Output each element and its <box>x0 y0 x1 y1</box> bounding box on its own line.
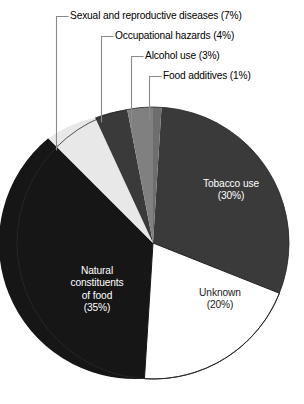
slice-label-unknown-line2: (20%) <box>175 299 265 311</box>
slice-label-natural-line1: Natural <box>49 265 145 277</box>
slice-label-unknown-line1: Unknown <box>175 287 265 299</box>
slice-label-natural-line4: (35%) <box>49 302 145 314</box>
leader-line-occupational-hazards <box>102 37 114 123</box>
slice-label-unknown: Unknown (20%) <box>175 287 265 312</box>
pie-chart-figure: Sexual and reproductive diseases (7%) Oc… <box>0 0 304 404</box>
slice-label-natural-constituents-of-food: Natural constituents of food (35%) <box>49 265 145 315</box>
slice-label-tobacco-use-line1: Tobacco use <box>176 178 286 190</box>
callout-label-occupational-hazards: Occupational hazards (4%) <box>115 30 234 42</box>
callout-label-alcohol-use: Alcohol use (3%) <box>145 50 220 62</box>
slice-label-tobacco-use: Tobacco use (30%) <box>176 178 286 203</box>
slice-label-natural-line2: constituents <box>49 277 145 289</box>
slice-label-natural-line3: of food <box>49 290 145 302</box>
slice-label-tobacco-use-line2: (30%) <box>176 190 286 202</box>
callout-label-sexual-and-reproductive-diseases: Sexual and reproductive diseases (7%) <box>70 10 242 22</box>
callout-label-food-additives: Food additives (1%) <box>163 70 251 82</box>
pie-slices <box>0 107 289 379</box>
